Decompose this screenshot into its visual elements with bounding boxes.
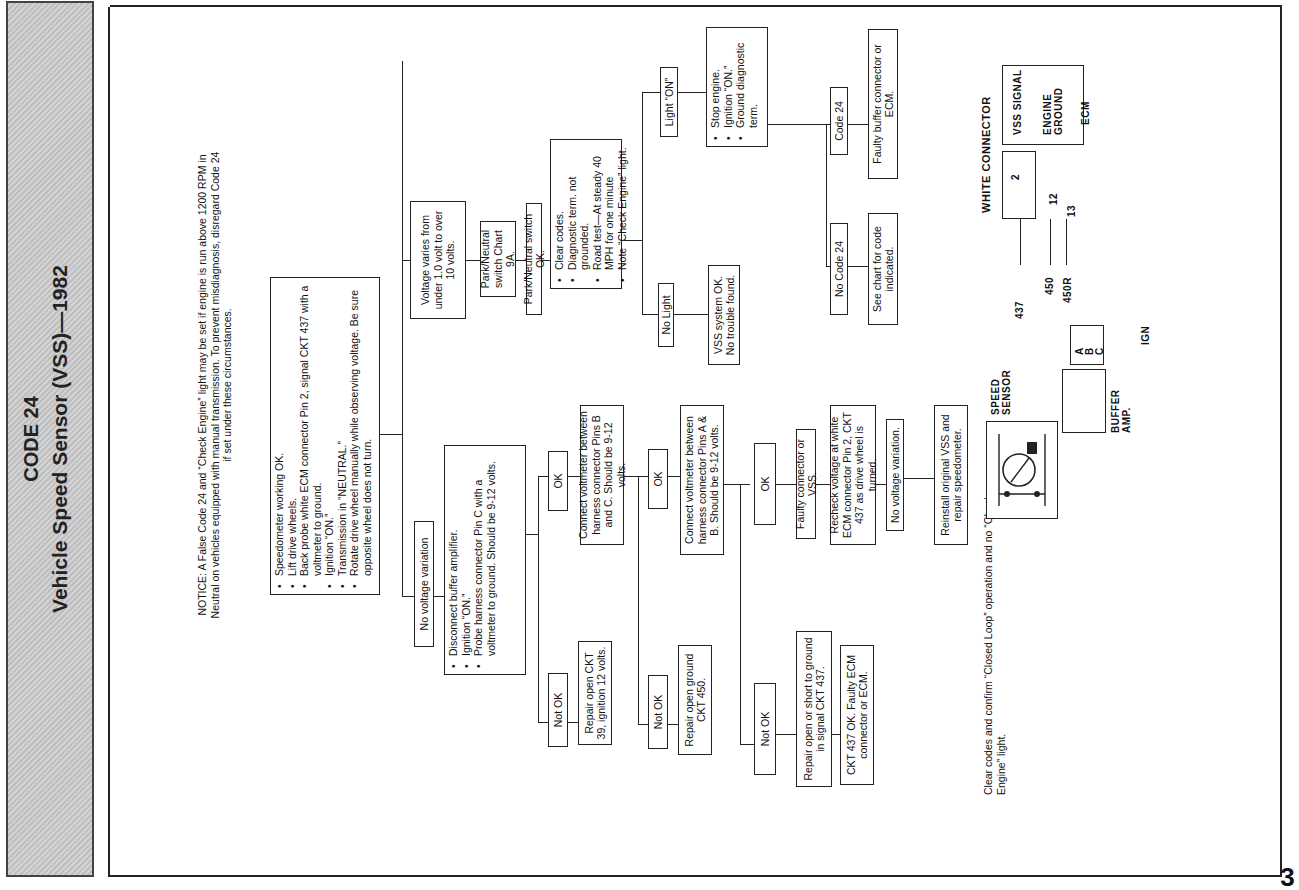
connector-line	[538, 477, 539, 723]
step-text: Diagnostic term. not grounded.	[566, 144, 591, 270]
buffer-connector	[1070, 325, 1104, 365]
notice-line-1: NOTICE: A False Code 24 and “Check Engin…	[196, 35, 209, 735]
recheck-voltage-box: Recheck voltage at white ECM connector P…	[830, 405, 876, 545]
ign-label: IGN	[1140, 326, 1151, 345]
start-instructions-box: Speedometer working OK. Lift drive wheel…	[270, 277, 380, 595]
ok-2-box: OK	[648, 449, 668, 509]
connector-line	[624, 476, 638, 477]
header-band: CODE 24 Vehicle Speed Sensor (VSS)—1982	[6, 1, 94, 877]
repair-ckt437-box: Repair open or short to ground in signal…	[796, 631, 832, 787]
connector-line	[568, 722, 578, 723]
connector-line	[740, 485, 741, 745]
repair-ckt39-box: Repair open CKT 39, ignition 12 volts.	[578, 641, 612, 745]
road-test-box: Clear codes. Diagnostic term. not ground…	[550, 139, 622, 289]
connector-line	[848, 266, 868, 267]
step-text: Ground diagnostic term.	[734, 32, 759, 128]
white-connector	[1002, 151, 1036, 219]
connector-line	[768, 124, 826, 125]
connect-pins-bc-box: Connect voltmeter between harness connec…	[580, 405, 624, 545]
step-text: Ignition “ON.”	[323, 282, 336, 576]
connector-line	[542, 260, 550, 261]
connector-line	[538, 722, 548, 723]
reinstall-vss-box: Reinstall original VSS and repair speedo…	[934, 405, 968, 545]
connector-line	[776, 734, 796, 735]
connector-line	[848, 124, 868, 125]
step-text: Stop engine.	[709, 32, 722, 128]
connector-line	[904, 478, 934, 479]
vss-signal-label: VSS SIGNAL	[1012, 65, 1023, 135]
notice-text: NOTICE: A False Code 24 and “Check Engin…	[196, 35, 234, 735]
park-neutral-ok-box: Park/Neutral switch OK.	[526, 203, 542, 315]
notice-line-3: if set under these circumstances.	[221, 35, 234, 735]
speed-sensor-box	[986, 421, 1058, 519]
faulty-connector-vss-box: Faulty connector or VSS.	[796, 429, 816, 539]
not-ok-2-box: Not OK	[648, 675, 668, 749]
white-connector-label: WHITE CONNECTOR	[980, 96, 992, 213]
step-text: Ignition “ON.”	[722, 32, 735, 128]
connector-line	[402, 61, 403, 597]
ok-1-box: OK	[548, 451, 568, 511]
step-text: Lift drive wheels.	[286, 282, 299, 576]
connector-line	[642, 92, 660, 93]
wire-450r	[1066, 219, 1067, 265]
step-text: Road test—At steady 40 MPH for one minut…	[591, 144, 616, 270]
code-title: CODE 24	[20, 3, 43, 875]
not-ok-1-box: Not OK	[548, 673, 568, 747]
disconnect-buffer-box: Disconnect buffer amplifier. Ignition “O…	[444, 445, 526, 675]
page-title: Vehicle Speed Sensor (VSS)—1982	[48, 3, 72, 875]
repair-ckt450-box: Repair open ground CKT 450.	[678, 645, 712, 755]
pin-12-label: 12	[1048, 193, 1059, 205]
connector-line	[832, 734, 840, 735]
code-24-box: Code 24	[830, 87, 848, 155]
stop-engine-box: Stop engine. Ignition “ON.” Ground diagn…	[706, 27, 768, 147]
ok-3-box: OK	[754, 443, 776, 525]
wire-450r-label: 450R	[1062, 277, 1073, 303]
connect-pins-ab-box: Connect voltmeter between harness connec…	[680, 405, 724, 555]
wire-437	[1020, 219, 1021, 265]
connector-line	[724, 484, 740, 485]
connector-line	[638, 724, 648, 725]
park-neutral-chart-box: Park/Neutral switch Chart 9A.	[480, 221, 516, 297]
ckt437-ok-box: CKT 437 OK. Faulty ECM connector or ECM.	[840, 645, 874, 785]
connector-line	[526, 534, 538, 535]
step-text: Probe harness connector Pin C with a vol…	[472, 450, 497, 656]
connector-line	[466, 260, 480, 261]
connector-line	[668, 724, 678, 725]
transistor-icon	[989, 424, 1053, 514]
pin-13-label: 13	[1066, 205, 1077, 217]
step-text: Disconnect buffer amplifier.	[447, 450, 460, 656]
speed-sensor-label: SPEED SENSOR	[990, 355, 1012, 415]
wire-450-label: 450	[1044, 277, 1055, 295]
step-text: Clear codes.	[553, 144, 566, 270]
connector-line	[642, 93, 643, 315]
connector-line	[538, 476, 548, 477]
notice-line-2: Neutral on vehicles equipped with manual…	[209, 35, 222, 735]
no-light-box: No Light	[658, 283, 674, 347]
buffer-amp-label: BUFFER AMP.	[1110, 363, 1132, 433]
wire-437-label: 437	[1014, 301, 1025, 319]
connector-line	[740, 744, 754, 745]
pin-c-label: C	[1094, 347, 1105, 355]
step-text: Transmission in “NEUTRAL.”	[336, 282, 349, 576]
voltage-varies-box: Voltage varies from under 1.0 volt to ov…	[410, 201, 466, 319]
connector-line	[740, 484, 750, 485]
connector-line	[638, 476, 648, 477]
step-text: Speedometer working OK.	[273, 282, 286, 576]
connector-line	[826, 125, 827, 267]
see-chart-box: See chart for code indicated.	[868, 213, 898, 325]
not-ok-3-box: Not OK	[754, 683, 776, 775]
no-voltage-variation-2-box: No voltage variation.	[886, 419, 904, 531]
step-text: Ignition “ON.”	[460, 450, 473, 656]
ecm-label: ECM	[1080, 101, 1091, 125]
connector-line	[380, 434, 402, 435]
vss-ok-box: VSS system OK. No trouble found.	[708, 265, 740, 365]
step-text: Note “Check Engine” light.	[616, 144, 629, 270]
no-voltage-variation-box: No voltage variation	[414, 521, 434, 647]
buffer-amp-box	[1062, 369, 1106, 433]
step-text: Rotate drive wheel manually while observ…	[348, 282, 373, 576]
faulty-buffer-box: Faulty buffer connector or ECM.	[868, 29, 898, 179]
engine-ground-label: ENGINE GROUND	[1042, 65, 1064, 135]
connector-line	[622, 240, 642, 241]
wire-450	[1050, 219, 1051, 265]
